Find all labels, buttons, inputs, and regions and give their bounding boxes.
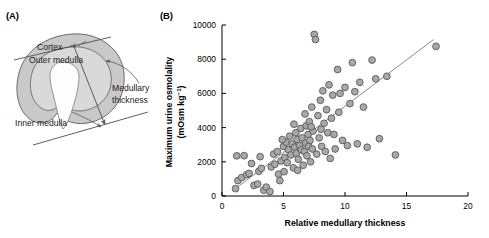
- data-point: [276, 177, 283, 184]
- x-axis-ticks: 05101520: [220, 192, 473, 211]
- x-tick-label: 10: [340, 201, 350, 211]
- data-point: [319, 87, 326, 94]
- data-point: [347, 100, 354, 107]
- data-point: [302, 111, 309, 118]
- data-point: [324, 129, 331, 136]
- kidney-diagram-group: Cortex Outer medulla Inner medulla Medul…: [14, 34, 150, 145]
- y-axis-title: Maximum urine osmolality: [164, 57, 174, 168]
- data-point: [246, 170, 253, 177]
- scatter-chart-group: 0200040006000800010000 05101520 Relative…: [164, 20, 473, 228]
- y-tick-label: 8000: [197, 54, 216, 64]
- data-point: [291, 121, 298, 128]
- data-point: [433, 43, 440, 50]
- data-point: [300, 162, 307, 169]
- data-point: [233, 152, 240, 159]
- y-tick-label: 0: [211, 191, 216, 201]
- data-point: [315, 112, 322, 119]
- y-tick-label: 4000: [197, 123, 216, 133]
- data-point: [372, 75, 379, 82]
- data-point: [344, 142, 351, 149]
- figure-svg: Cortex Outer medulla Inner medulla Medul…: [0, 0, 489, 238]
- data-point: [356, 79, 363, 86]
- data-point: [271, 161, 278, 168]
- data-point: [248, 160, 255, 167]
- inner-medulla-label: Inner medulla: [15, 118, 67, 128]
- data-point: [308, 123, 315, 130]
- data-point: [376, 135, 383, 142]
- data-point: [337, 90, 344, 97]
- data-point: [295, 156, 302, 163]
- data-point: [318, 126, 325, 133]
- data-point: [313, 151, 320, 158]
- data-point: [328, 115, 335, 122]
- data-point: [258, 165, 265, 172]
- outer-medulla-label: Outer medulla: [29, 55, 83, 65]
- data-point: [334, 66, 341, 73]
- x-tick-label: 20: [463, 201, 473, 211]
- y-axis-ticks: 0200040006000800010000: [193, 20, 226, 201]
- data-point: [284, 159, 291, 166]
- medullary-thickness-label-line2: thickness: [112, 95, 148, 105]
- data-point: [303, 152, 310, 159]
- data-point: [383, 73, 390, 80]
- x-tick-label: 15: [402, 201, 412, 211]
- data-point: [254, 181, 261, 188]
- data-point: [317, 97, 324, 104]
- data-point: [326, 81, 333, 88]
- data-point: [329, 92, 336, 99]
- y-tick-label: 10000: [193, 20, 217, 30]
- data-point: [279, 136, 286, 143]
- data-point: [308, 104, 315, 111]
- data-point: [327, 155, 334, 162]
- data-point: [392, 152, 399, 159]
- data-point: [323, 106, 330, 113]
- data-point: [294, 167, 301, 174]
- data-point: [274, 148, 281, 155]
- x-axis-title: Relative medullary thickness: [285, 218, 406, 228]
- data-point: [312, 36, 319, 43]
- data-point: [307, 137, 314, 144]
- data-point: [232, 185, 239, 192]
- figure-container: (A) (B): [0, 0, 489, 238]
- data-point: [316, 134, 323, 141]
- data-point: [307, 158, 314, 165]
- data-point: [369, 57, 376, 64]
- y-axis-units: (mOsm kg−1): [175, 85, 187, 138]
- x-tick-label: 0: [220, 201, 225, 211]
- data-point: [286, 133, 293, 140]
- x-tick-label: 5: [281, 201, 286, 211]
- data-point: [354, 140, 361, 147]
- data-point: [360, 104, 367, 111]
- data-point: [364, 144, 371, 151]
- data-point: [332, 146, 339, 153]
- data-point: [342, 84, 349, 91]
- data-point: [322, 148, 329, 155]
- data-point: [267, 188, 274, 195]
- data-point: [241, 152, 248, 159]
- data-point: [335, 109, 342, 116]
- y-tick-label: 6000: [197, 88, 216, 98]
- medullary-thickness-label-line1: Medullary: [112, 83, 150, 93]
- scatter-points: [232, 31, 439, 195]
- data-point: [281, 168, 288, 175]
- cortex-label: Cortex: [37, 42, 63, 52]
- data-point: [257, 153, 264, 160]
- y-tick-label: 2000: [197, 157, 216, 167]
- data-point: [351, 88, 358, 95]
- data-point: [349, 59, 356, 66]
- data-point: [331, 131, 338, 138]
